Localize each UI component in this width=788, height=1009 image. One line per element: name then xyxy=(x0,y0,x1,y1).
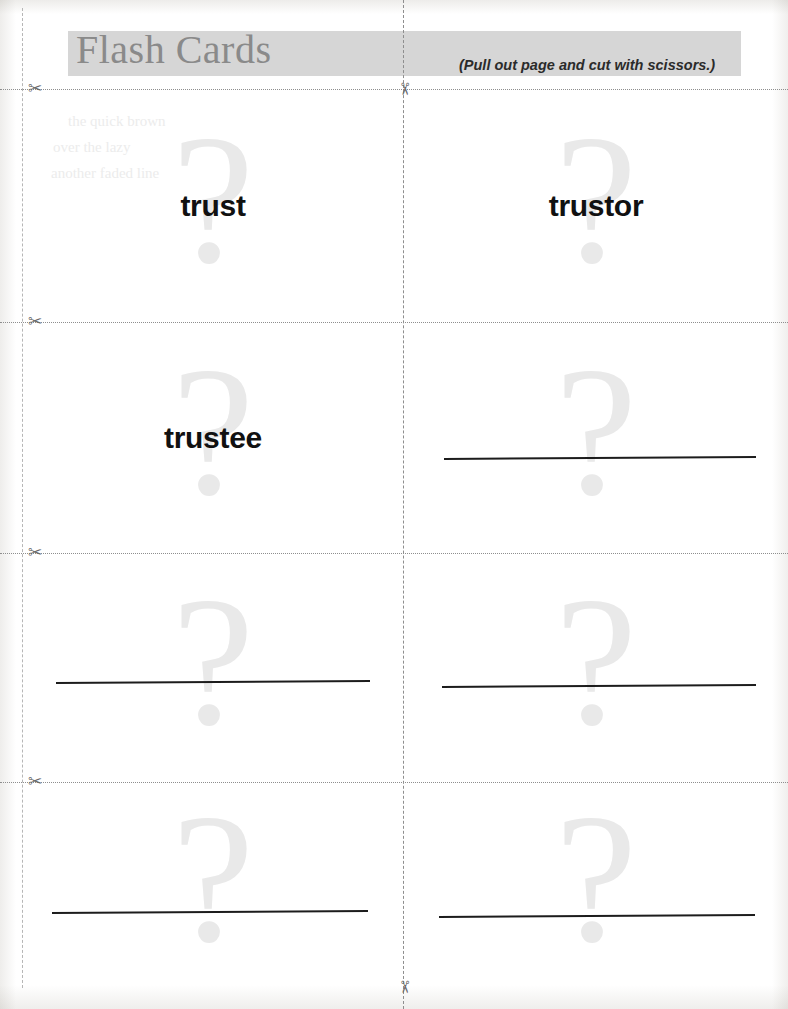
bleed-through-text: another faded line xyxy=(51,163,159,183)
write-in-line[interactable] xyxy=(56,680,370,684)
question-mark-watermark: ? xyxy=(555,785,637,970)
flash-card-grid: the quick brown over the lazy another fa… xyxy=(0,89,788,988)
flash-card[interactable]: ? xyxy=(404,553,788,782)
worksheet-page: Flash Cards (Pull out page and cut with … xyxy=(0,0,788,1009)
flash-card[interactable]: ? xyxy=(23,782,403,988)
bleed-through-text: over the lazy xyxy=(53,137,130,157)
question-mark-watermark: ? xyxy=(555,568,637,753)
flash-card[interactable]: ? xyxy=(404,322,788,553)
write-in-line[interactable] xyxy=(444,456,756,460)
flash-card[interactable]: ? xyxy=(23,553,403,782)
question-mark-watermark: ? xyxy=(172,785,254,970)
flash-card[interactable]: ? xyxy=(404,782,788,988)
flash-card-term: trustee xyxy=(23,421,403,455)
question-mark-watermark: ? xyxy=(172,568,254,753)
write-in-line[interactable] xyxy=(439,914,755,918)
write-in-line[interactable] xyxy=(442,684,756,688)
cut-instruction-note: (Pull out page and cut with scissors.) xyxy=(459,57,715,73)
write-in-line[interactable] xyxy=(52,910,368,914)
flash-card-term: trustor xyxy=(404,189,788,223)
flash-card[interactable]: ? trustor xyxy=(404,89,788,322)
page-title: Flash Cards xyxy=(76,27,272,73)
question-mark-watermark: ? xyxy=(555,338,637,523)
flash-card[interactable]: the quick brown over the lazy another fa… xyxy=(23,89,403,322)
flash-card[interactable]: ? trustee xyxy=(23,322,403,553)
flash-card-term: trust xyxy=(23,189,403,223)
bleed-through-text: the quick brown xyxy=(68,111,165,131)
